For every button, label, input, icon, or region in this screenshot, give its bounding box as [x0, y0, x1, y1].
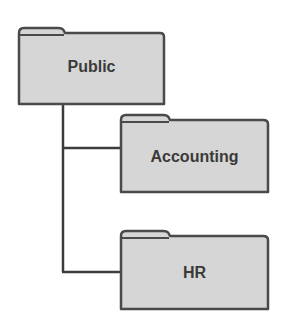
- folder-label-accounting: Accounting: [121, 149, 268, 165]
- folder-label-public: Public: [19, 59, 164, 75]
- folder-label-hr: HR: [121, 265, 268, 281]
- tree-connectors: [62, 104, 122, 272]
